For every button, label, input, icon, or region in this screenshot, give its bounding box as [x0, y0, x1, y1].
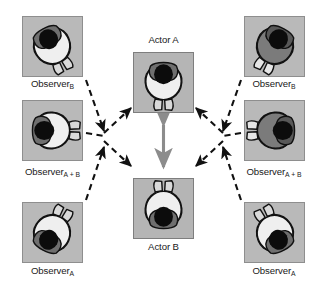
figure-top-view [245, 101, 304, 160]
link-hub-right-actor-b [196, 141, 223, 166]
diagram-canvas: ObserverB ObserverA + B [0, 0, 326, 305]
panel-actor-a[interactable] [133, 52, 194, 113]
link-hub-right-actor-a [196, 108, 223, 133]
label-observer-b-left: ObserverB [0, 78, 105, 92]
link-oab-right-to-hub [223, 133, 241, 136]
figure-top-view [245, 17, 304, 76]
label-observer-ab-left: ObserverA + B [0, 166, 105, 180]
label-observer-a-right: ObserverA [222, 265, 326, 279]
panel-observer-ab-right[interactable] [244, 100, 305, 161]
link-oab-left-to-hub [86, 133, 104, 136]
figure-top-view [23, 101, 82, 160]
figure-top-view [245, 203, 304, 262]
label-actor-b: Actor B [113, 241, 214, 252]
link-hub-left-actor-a [104, 108, 131, 133]
panel-observer-b-left[interactable] [22, 16, 83, 77]
figure-top-view [134, 53, 193, 112]
figure-top-view [23, 203, 82, 262]
panel-observer-a-right[interactable] [244, 202, 305, 263]
link-hub-left-actor-b [104, 141, 131, 166]
panel-observer-a-left[interactable] [22, 202, 83, 263]
figure-top-view [23, 17, 82, 76]
figure-top-view [134, 179, 193, 238]
label-observer-a-left: ObserverA [0, 265, 105, 279]
label-actor-a: Actor A [113, 34, 214, 45]
panel-actor-b[interactable] [133, 178, 194, 239]
panel-observer-ab-left[interactable] [22, 100, 83, 161]
label-observer-ab-right: ObserverA + B [222, 166, 326, 180]
panel-observer-b-right[interactable] [244, 16, 305, 77]
label-observer-b-right: ObserverB [222, 78, 326, 92]
